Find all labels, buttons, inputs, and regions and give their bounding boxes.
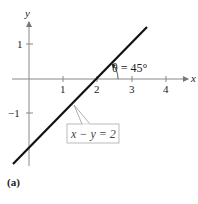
x-tick-label-4: 4 [163,83,169,95]
y-axis-label: y [24,7,30,19]
figure-caption: (a) [7,176,20,189]
equation-label: x − y = 2 [70,127,116,141]
x-tick-label-3: 3 [129,83,135,95]
line-angle-diagram: x y 1 2 3 4 1 −1 θ = 45° x − y = 2 (a) [0,0,198,204]
x-axis-label: x [190,72,196,84]
angle-label: θ = 45° [112,61,148,75]
x-tick-label-1: 1 [60,83,66,95]
y-tick-label-neg1: −1 [8,107,20,119]
callout-pointer [74,105,90,124]
x-tick-label-2: 2 [94,83,100,95]
graph-line [13,27,147,164]
y-tick-label-1: 1 [17,38,23,50]
